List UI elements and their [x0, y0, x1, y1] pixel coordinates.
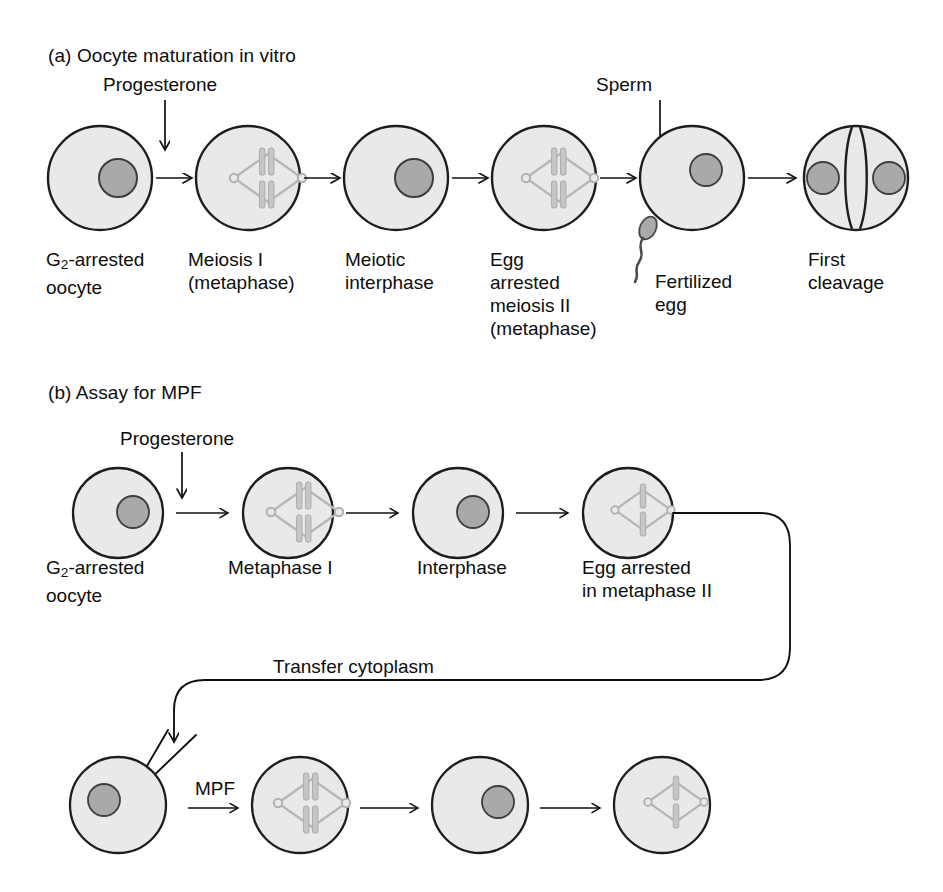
- cell-metaphase-i: [243, 468, 343, 558]
- figure-canvas: (a) Oocyte maturation in vitro Progester…: [0, 0, 943, 892]
- injection-needle-icon: [120, 730, 196, 812]
- cell-meiotic-interphase: [344, 126, 448, 230]
- caption-g2-arrested-oocyte: G2-arrestedoocyte: [46, 248, 144, 299]
- caption-g2-arrested-oocyte-b: G2-arrestedoocyte: [46, 556, 144, 607]
- cell-fertilized-egg: [635, 126, 744, 282]
- cell-g2-arrested-oocyte: [48, 126, 152, 230]
- cell-induced-metaphase-i: [252, 757, 350, 853]
- panel-a-progesterone-label: Progesterone: [103, 74, 217, 96]
- cell-induced-interphase: [432, 757, 528, 853]
- caption-egg-arrested-meiosis-ii: Eggarrestedmeiosis II(metaphase): [490, 248, 597, 340]
- transfer-cytoplasm-label: Transfer cytoplasm: [273, 656, 434, 678]
- cell-egg-arrested-in-metaphase-ii: [583, 468, 675, 558]
- caption-fertilized-egg: Fertilizedegg: [655, 270, 732, 316]
- cell-interphase: [413, 468, 503, 558]
- mpf-injection-label: MPF: [195, 778, 235, 800]
- caption-meiotic-interphase: Meioticinterphase: [345, 248, 434, 294]
- cell-meiosis-i-metaphase: [196, 126, 306, 230]
- panel-a-sperm-label: Sperm: [596, 74, 652, 96]
- transfer-cytoplasm-path: [174, 513, 790, 742]
- cell-induced-metaphase-ii: [614, 757, 710, 853]
- cell-recipient-oocyte: [70, 757, 166, 853]
- cell-egg-arrested-meiosis-ii: [492, 126, 598, 230]
- cell-first-cleavage: [804, 126, 908, 230]
- caption-interphase: Interphase: [417, 556, 507, 579]
- caption-metaphase-i: Metaphase I: [228, 556, 333, 579]
- caption-first-cleavage: Firstcleavage: [808, 248, 884, 294]
- panel-b-title: (b) Assay for MPF: [48, 382, 202, 404]
- panel-b-progesterone-label: Progesterone: [120, 428, 234, 450]
- cell-g2-arrested-oocyte-b: [73, 468, 163, 558]
- panel-a-title: (a) Oocyte maturation in vitro: [48, 45, 296, 67]
- caption-egg-arrested-in-metaphase-ii: Egg arrestedin metaphase II: [582, 556, 712, 602]
- caption-meiosis-i-metaphase: Meiosis I(metaphase): [188, 248, 295, 294]
